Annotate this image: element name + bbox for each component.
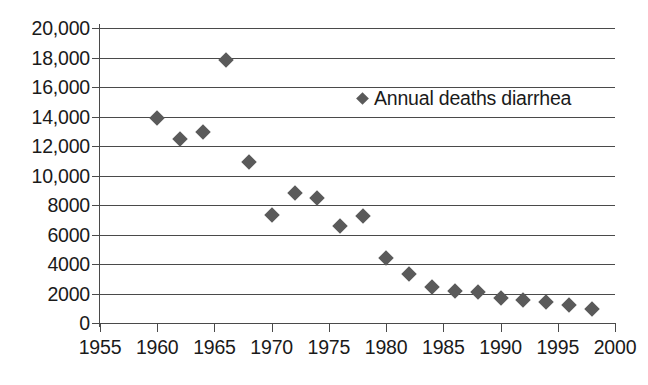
legend-label: Annual deaths diarrhea <box>374 87 571 110</box>
y-tick-label: 6000 <box>47 223 90 246</box>
x-tick-mark <box>100 323 101 332</box>
x-tick-mark <box>615 323 616 332</box>
y-tick-label: 4000 <box>47 253 90 276</box>
x-tick-label: 1990 <box>479 336 522 359</box>
y-tick-label: 14,000 <box>32 105 90 128</box>
data-point <box>447 284 463 300</box>
data-point <box>149 110 165 126</box>
y-tick-label: 8000 <box>47 194 90 217</box>
data-point <box>172 132 188 148</box>
x-tick-label: 2000 <box>594 336 637 359</box>
x-tick-mark <box>558 323 559 332</box>
data-point <box>401 266 417 282</box>
data-point <box>539 295 555 311</box>
gridline <box>100 146 615 147</box>
y-tick-label: 10,000 <box>32 164 90 187</box>
legend-diamond-icon <box>356 92 369 105</box>
y-tick-label: 16,000 <box>32 76 90 99</box>
data-point <box>470 284 486 300</box>
data-point <box>218 53 234 69</box>
gridline <box>100 264 615 265</box>
y-tick-mark <box>92 323 100 324</box>
y-tick-mark <box>92 28 100 29</box>
y-tick-label: 0 <box>79 312 90 335</box>
data-point <box>333 218 349 234</box>
gridline <box>100 235 615 236</box>
gridline <box>100 294 615 295</box>
gridline <box>100 28 615 29</box>
data-point <box>561 297 577 313</box>
x-tick-mark <box>272 323 273 332</box>
x-tick-mark <box>386 323 387 332</box>
data-point <box>264 208 280 224</box>
y-tick-mark <box>92 146 100 147</box>
data-point <box>195 124 211 140</box>
y-tick-label: 12,000 <box>32 135 90 158</box>
data-point <box>287 185 303 201</box>
x-tick-label: 1970 <box>250 336 293 359</box>
x-tick-mark <box>443 323 444 332</box>
y-tick-mark <box>92 58 100 59</box>
x-tick-label: 1960 <box>136 336 179 359</box>
data-point <box>516 292 532 308</box>
x-tick-label: 1995 <box>536 336 579 359</box>
y-tick-label: 2000 <box>47 282 90 305</box>
scatter-chart: 0200040006000800010,00012,00014,00016,00… <box>0 0 648 385</box>
data-point <box>241 154 257 170</box>
y-tick-label: 20,000 <box>32 17 90 40</box>
y-tick-mark <box>92 264 100 265</box>
x-tick-mark <box>501 323 502 332</box>
data-point <box>310 191 326 207</box>
x-tick-label: 1965 <box>193 336 236 359</box>
x-tick-label: 1955 <box>79 336 122 359</box>
x-tick-label: 1975 <box>308 336 351 359</box>
y-tick-mark <box>92 235 100 236</box>
x-tick-mark <box>214 323 215 332</box>
y-tick-mark <box>92 294 100 295</box>
legend: Annual deaths diarrhea <box>358 87 571 110</box>
data-point <box>424 279 440 295</box>
y-tick-mark <box>92 176 100 177</box>
data-point <box>584 301 600 317</box>
y-tick-mark <box>92 205 100 206</box>
x-tick-label: 1980 <box>365 336 408 359</box>
gridline <box>100 323 615 324</box>
gridline <box>100 205 615 206</box>
x-tick-mark <box>157 323 158 332</box>
y-tick-mark <box>92 117 100 118</box>
y-axis-tick-labels: 0200040006000800010,00012,00014,00016,00… <box>0 0 90 385</box>
data-point <box>493 290 509 306</box>
plot-area <box>100 28 615 323</box>
x-tick-mark <box>329 323 330 332</box>
y-tick-label: 18,000 <box>32 46 90 69</box>
gridline <box>100 58 615 59</box>
x-tick-label: 1985 <box>422 336 465 359</box>
gridline <box>100 117 615 118</box>
y-tick-mark <box>92 87 100 88</box>
gridline <box>100 176 615 177</box>
data-point <box>355 208 371 224</box>
